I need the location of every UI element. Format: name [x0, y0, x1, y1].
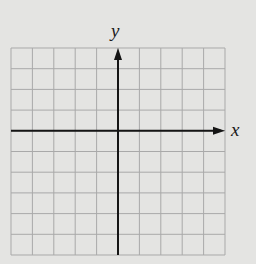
x-axis-arrowhead-icon [213, 127, 225, 135]
y-axis-label: y [111, 21, 119, 40]
x-axis-label: x [231, 120, 239, 139]
y-axis-arrowhead-icon [114, 48, 122, 60]
coordinate-grid [0, 0, 256, 264]
